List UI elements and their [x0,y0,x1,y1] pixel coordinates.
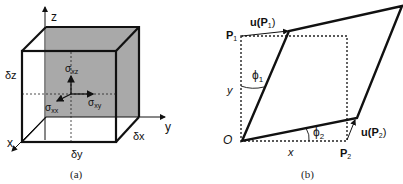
edge [22,117,46,142]
phi1-label: ϕ1 [252,68,264,84]
figure: z y x δz δy δx σxz σxy σxx (a) P1 u(P1) … [0,0,403,184]
p2-label: P2 [340,147,351,160]
edge [22,27,46,51]
u-p2-arrow [347,120,355,140]
x-label: x [7,136,13,150]
y-label: y [165,120,171,134]
y-dimension-label: y [226,84,234,96]
phi2-label: ϕ2 [313,125,325,141]
dz-label: δz [5,69,17,81]
dy-label: δy [71,148,83,160]
caption-b: (b) [301,168,314,181]
phi1-arc [241,86,264,88]
phi2-arc [306,128,309,141]
dx-label: δx [133,130,145,142]
u-p2-label: u(P2) [361,126,386,139]
z-label: z [51,10,57,24]
caption-a: (a) [70,168,83,181]
origin-label: O [223,133,232,147]
u-p1-arrow [242,31,288,36]
p1-label: P1 [226,29,237,42]
x-dimension-label: x [287,146,294,158]
u-p1-label: u(P1) [250,16,275,29]
